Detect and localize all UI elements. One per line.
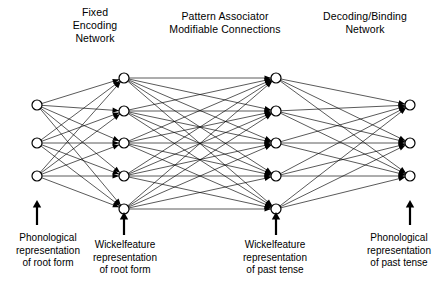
connection-edge (281, 105, 405, 111)
network-node (405, 138, 415, 148)
network-node (119, 106, 129, 116)
connection-arrowhead (112, 108, 119, 113)
connection-arrowhead (398, 176, 405, 181)
connection-edge (40, 109, 121, 205)
header-pattern-associator: Pattern Associator Modifiable Connection… (145, 10, 305, 36)
connection-arrowhead (399, 145, 406, 150)
connection-edge (40, 82, 120, 173)
network-node (119, 138, 129, 148)
connection-arrowhead (112, 136, 119, 141)
connection-edge (280, 113, 405, 174)
connection-edge (42, 105, 119, 110)
network-node (119, 73, 129, 83)
network-node (119, 171, 129, 181)
header-fixed-encoding-network: Fixed Encoding Network (45, 6, 145, 45)
connection-arrowhead (264, 145, 271, 150)
network-node (32, 171, 42, 181)
connection-arrowhead (112, 145, 119, 150)
network-node (32, 100, 42, 110)
caption-wickelfeature-representation-root-form: Wickelfeature representation of root for… (72, 239, 178, 277)
connection-edge (42, 79, 119, 103)
caption-phonological-representation-past-tense: Phonological representation of past tens… (352, 232, 446, 270)
figure-canvas: Fixed Encoding Network Pattern Associato… (0, 0, 446, 288)
caption-wickelfeature-representation-past-tense: Wickelfeature representation of past ten… (222, 239, 328, 277)
header-decoding-binding-network: Decoding/Binding Network (300, 10, 430, 36)
network-node (405, 100, 415, 110)
connection-edge (281, 177, 405, 208)
network-node (271, 106, 281, 116)
connection-edge (41, 114, 120, 173)
network-node (32, 138, 42, 148)
connection-edge (281, 112, 405, 142)
arrow-phonological-past-head (406, 200, 414, 208)
input-arrow-group (33, 200, 414, 235)
connection-edge (280, 107, 405, 173)
edge-group (40, 78, 406, 209)
connection-edge (41, 81, 120, 140)
arrow-phonological-root-head (33, 200, 41, 208)
network-node (271, 73, 281, 83)
connection-edge (281, 106, 405, 141)
connection-edge (41, 108, 120, 173)
arrowhead-group (112, 75, 406, 211)
connection-edge (280, 80, 405, 141)
connection-edge (281, 79, 405, 104)
network-node (405, 171, 415, 181)
connection-edge (280, 108, 406, 206)
connection-arrowhead (264, 176, 271, 181)
network-node (271, 138, 281, 148)
connection-edge (42, 178, 120, 207)
network-node (271, 171, 281, 181)
